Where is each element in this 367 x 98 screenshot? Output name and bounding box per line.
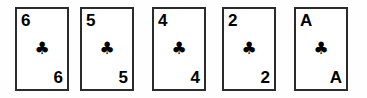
playing-card[interactable]: A ♣ A bbox=[294, 7, 348, 91]
card-rank-bottom-right: 5 bbox=[119, 69, 128, 86]
club-suit-icon: ♣ bbox=[99, 40, 114, 57]
club-suit-icon: ♣ bbox=[241, 40, 256, 57]
club-suit-icon: ♣ bbox=[313, 40, 328, 57]
card-face: 5 ♣ 5 bbox=[82, 9, 132, 89]
card-rank-bottom-right: 2 bbox=[261, 69, 270, 86]
card-rank-top-left: 4 bbox=[158, 12, 167, 29]
club-suit-icon: ♣ bbox=[171, 40, 186, 57]
card-face: A ♣ A bbox=[296, 9, 346, 89]
card-rank-bottom-right: 4 bbox=[191, 69, 200, 86]
card-face: 6 ♣ 6 bbox=[17, 9, 67, 89]
card-row: 6 ♣ 6 5 ♣ 5 4 ♣ 4 2 ♣ 2 A ♣ A bbox=[0, 0, 367, 98]
playing-card[interactable]: 2 ♣ 2 bbox=[222, 7, 276, 91]
card-rank-top-left: 5 bbox=[86, 12, 95, 29]
playing-card[interactable]: 6 ♣ 6 bbox=[15, 7, 69, 91]
club-suit-icon: ♣ bbox=[34, 40, 49, 57]
card-rank-bottom-right: 6 bbox=[54, 69, 63, 86]
playing-card[interactable]: 5 ♣ 5 bbox=[80, 7, 134, 91]
card-face: 2 ♣ 2 bbox=[224, 9, 274, 89]
playing-card[interactable]: 4 ♣ 4 bbox=[152, 7, 206, 91]
card-face: 4 ♣ 4 bbox=[154, 9, 204, 89]
card-rank-top-left: A bbox=[300, 12, 312, 29]
card-rank-bottom-right: A bbox=[330, 69, 342, 86]
card-rank-top-left: 6 bbox=[21, 12, 30, 29]
card-rank-top-left: 2 bbox=[228, 12, 237, 29]
